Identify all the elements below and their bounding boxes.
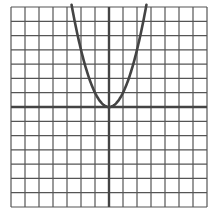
parabola-graph: [0, 0, 215, 211]
